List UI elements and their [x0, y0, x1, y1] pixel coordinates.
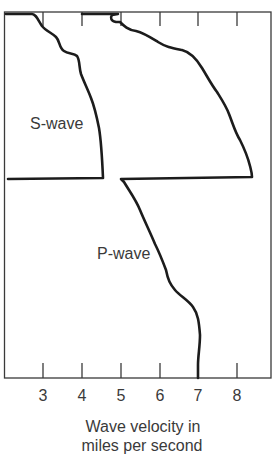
p-wave-curve [82, 14, 252, 378]
top-ticks [43, 12, 237, 26]
bottom-ticks [43, 363, 237, 378]
tick-label-8: 8 [233, 387, 242, 404]
p-wave-label: P-wave [97, 245, 150, 262]
tick-label-4: 4 [78, 387, 87, 404]
x-tick-labels: 3 4 5 6 7 8 [39, 387, 242, 404]
tick-label-7: 7 [194, 387, 203, 404]
s-wave-curve [6, 14, 103, 179]
x-axis-title-line2: miles per second [82, 437, 203, 454]
tick-label-6: 6 [156, 387, 165, 404]
seismic-velocity-chart: S-wave P-wave 3 4 5 6 7 8 Wave velocity … [0, 0, 274, 455]
x-axis-title-line1: Wave velocity in [86, 418, 201, 435]
tick-label-5: 5 [117, 387, 126, 404]
tick-label-3: 3 [39, 387, 48, 404]
s-wave-label: S-wave [30, 115, 83, 132]
plot-frame [5, 12, 272, 378]
